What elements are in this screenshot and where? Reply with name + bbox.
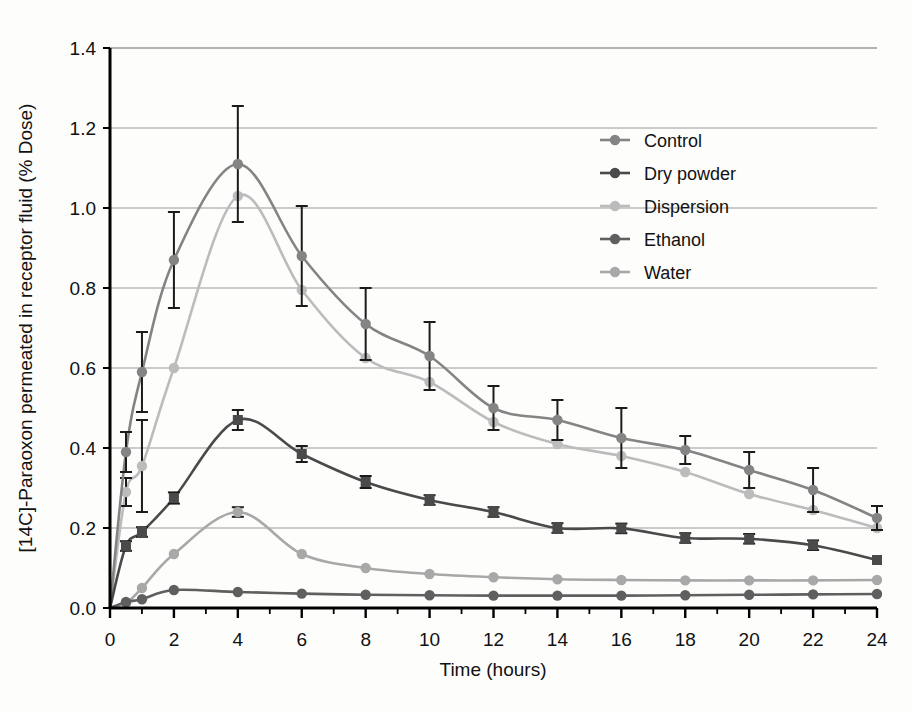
data-point (169, 255, 179, 265)
data-point (233, 159, 243, 169)
legend-item-control[interactable]: Control (600, 131, 702, 151)
legend-label: Dry powder (644, 164, 736, 184)
data-point (489, 507, 499, 517)
legend-item-water[interactable]: Water (600, 263, 691, 283)
x-tick-label: 4 (233, 629, 244, 650)
data-point (552, 590, 562, 600)
data-point (680, 590, 690, 600)
data-point (872, 575, 882, 585)
data-point (744, 575, 754, 585)
x-tick-label: 18 (675, 629, 696, 650)
data-point (808, 575, 818, 585)
x-tick-label: 2 (169, 629, 180, 650)
gridlines (110, 48, 877, 528)
data-point (488, 590, 498, 600)
data-point (360, 563, 370, 573)
y-tick-label: 0.6 (70, 358, 96, 379)
x-tick-label: 12 (483, 629, 504, 650)
data-point (552, 574, 562, 584)
data-point (361, 477, 371, 487)
data-point (808, 589, 818, 599)
legend-label: Water (644, 263, 691, 283)
series-layer (110, 106, 883, 608)
data-point (137, 367, 147, 377)
data-point (680, 467, 690, 477)
data-point (297, 251, 307, 261)
data-point (360, 319, 370, 329)
data-point (744, 590, 754, 600)
legend-label: Control (644, 131, 702, 151)
data-point (616, 575, 626, 585)
legend-marker (610, 267, 620, 277)
legend-label: Dispersion (644, 197, 729, 217)
data-point (488, 403, 498, 413)
data-point (169, 549, 179, 559)
data-point (425, 495, 435, 505)
data-point (424, 569, 434, 579)
data-point (616, 590, 626, 600)
data-point (424, 351, 434, 361)
x-tick-label: 22 (803, 629, 824, 650)
y-tick-label: 0.2 (70, 518, 96, 539)
legend-item-dry-powder[interactable]: Dry powder (600, 164, 736, 184)
data-point (121, 447, 131, 457)
data-point (680, 575, 690, 585)
line-chart: 0.00.20.40.60.81.01.21.40246810121416182… (0, 0, 912, 713)
data-point (680, 533, 690, 543)
data-point (808, 540, 818, 550)
data-point (297, 449, 307, 459)
y-tick-label: 0.0 (70, 598, 96, 619)
series-dispersion (110, 191, 882, 608)
data-point (488, 572, 498, 582)
data-point (137, 461, 147, 471)
data-point (233, 415, 243, 425)
data-point (744, 465, 754, 475)
data-point (872, 589, 882, 599)
data-point (121, 541, 131, 551)
data-point (297, 588, 307, 598)
y-axis-title: [14C]-Paraoxon permeated in receptor flu… (15, 104, 36, 553)
data-point (616, 523, 626, 533)
x-tick-label: 8 (360, 629, 371, 650)
legend-marker (610, 201, 620, 211)
x-tick-label: 16 (611, 629, 632, 650)
x-tick-label: 24 (866, 629, 888, 650)
data-point (169, 363, 179, 373)
data-point (680, 445, 690, 455)
data-point (137, 583, 147, 593)
x-axis-title: Time (hours) (440, 659, 547, 680)
x-tick-label: 6 (296, 629, 307, 650)
data-point (424, 590, 434, 600)
y-tick-label: 1.0 (70, 198, 96, 219)
data-point (169, 493, 179, 503)
data-point (872, 513, 882, 523)
legend-item-ethanol[interactable]: Ethanol (600, 230, 705, 250)
data-point (872, 555, 882, 565)
axis-layer (103, 48, 877, 618)
data-point (297, 549, 307, 559)
legend-marker (610, 234, 620, 244)
x-tick-label: 14 (547, 629, 569, 650)
data-point (137, 527, 147, 537)
x-tick-label: 10 (419, 629, 440, 650)
data-point (137, 594, 147, 604)
data-point (121, 597, 131, 607)
data-point (744, 489, 754, 499)
data-point (616, 433, 626, 443)
chart-legend: ControlDry powderDispersionEthanolWater (600, 131, 736, 283)
data-point (552, 415, 562, 425)
y-tick-label: 0.4 (70, 438, 97, 459)
x-tick-label: 0 (105, 629, 116, 650)
y-tick-label: 1.2 (70, 118, 96, 139)
data-point (169, 585, 179, 595)
data-point (552, 523, 562, 533)
legend-item-dispersion[interactable]: Dispersion (600, 197, 729, 217)
data-point (233, 587, 243, 597)
x-tick-label: 20 (739, 629, 760, 650)
data-point (233, 507, 243, 517)
tick-labels: 0.00.20.40.60.81.01.21.40246810121416182… (70, 38, 888, 650)
y-tick-label: 1.4 (70, 38, 97, 59)
legend-marker (610, 168, 620, 178)
legend-label: Ethanol (644, 230, 705, 250)
y-tick-label: 0.8 (70, 278, 96, 299)
